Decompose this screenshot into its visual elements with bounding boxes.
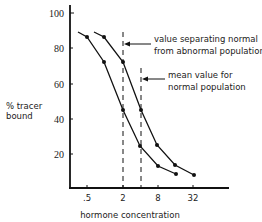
annotation-cutoff-line1: value separating normal xyxy=(154,34,258,44)
y-tick-labels: 100 80 60 40 20 xyxy=(49,8,64,160)
y-axis-label-line2: bound xyxy=(6,111,33,121)
annotation-mean-line1: mean value for xyxy=(168,70,233,80)
y-tick-label: 40 xyxy=(54,114,64,125)
y-tick-label: 20 xyxy=(54,149,64,160)
x-tick-labels: .5 2 8 32 xyxy=(83,193,198,203)
annotation-arrow-cutoff xyxy=(124,42,151,47)
annotation-mean-line2: normal population xyxy=(168,82,246,92)
y-tick-label: 80 xyxy=(54,43,64,54)
annotation-arrow-mean xyxy=(142,77,165,82)
x-tick-label: 8 xyxy=(155,193,160,203)
annotation-cutoff-line2: from abnormal population xyxy=(154,46,262,56)
x-tick-label: 2 xyxy=(120,193,125,203)
x-tick-label: .5 xyxy=(83,193,91,203)
x-tick-label: 32 xyxy=(188,193,199,203)
series-left-markers xyxy=(85,35,178,176)
y-tick-label: 60 xyxy=(54,79,64,90)
y-axis-label-line1: % tracer xyxy=(6,101,43,111)
y-tick-label: 100 xyxy=(49,8,64,19)
chart: 100 80 60 40 20 .5 2 8 32 hormone concen… xyxy=(0,0,262,222)
x-axis-label: hormone concentration xyxy=(80,210,180,220)
